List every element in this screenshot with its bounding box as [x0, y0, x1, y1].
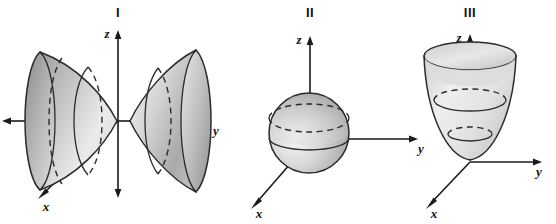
panel-3-paraboloid: III z y x [424, 5, 542, 221]
panel-2-x-label: x [255, 206, 263, 221]
hyperboloid-left-nappe [25, 52, 117, 190]
panel-3-roman-numeral: III [464, 5, 476, 20]
panel-1-z-label: z [103, 26, 110, 41]
panel-3-x-label: x [430, 206, 438, 221]
panel-1-x-label: x [42, 199, 50, 214]
quadric-surfaces-figure: I z y x [0, 0, 556, 224]
figure-canvas: I z y x [0, 0, 556, 224]
panel-1-roman-numeral: I [116, 5, 120, 20]
panel-2-sphere: II z y x [251, 5, 424, 221]
panel-2-roman-numeral: II [306, 5, 314, 20]
panel-1-y-label: y [211, 123, 219, 138]
panel-1-hyperboloid: I z y x [2, 5, 219, 214]
panel-3-y-axis [470, 159, 542, 166]
panel-2-z-label: z [295, 32, 302, 47]
panel-3-y-label: y [534, 164, 542, 179]
panel-3-x-axis [426, 162, 470, 209]
sphere-upper-hemisphere [269, 93, 349, 145]
hyperboloid-right-nappe [130, 50, 211, 192]
panel-1-z-axis [115, 30, 122, 198]
panel-2-y-label: y [416, 141, 424, 156]
